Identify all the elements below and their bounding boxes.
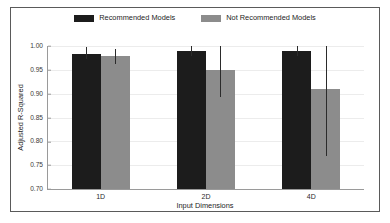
x-axis-tick-label-4d: 4D <box>307 193 316 200</box>
x-axis-tick-label-1d: 1D <box>96 193 105 200</box>
y-axis-tick-label: 0.75 <box>30 162 48 169</box>
y-axis-tick-label: 0.90 <box>30 90 48 97</box>
bar-4d-series1[interactable] <box>282 51 311 189</box>
legend-label-recommended: Recommended Models <box>99 14 175 21</box>
bar-2d-series1[interactable] <box>177 51 206 189</box>
bar-group-2d: 2D <box>153 46 258 189</box>
y-axis-tick-label: 0.85 <box>30 114 48 121</box>
legend-swatch-recommended <box>74 15 94 22</box>
y-axis-title-text: Adjusted R-Squared <box>16 84 25 151</box>
figure-canvas: Recommended Models Not Recommended Model… <box>0 0 390 223</box>
error-bar-1d-series2 <box>115 49 116 64</box>
y-axis-tick-label: 0.70 <box>30 186 48 193</box>
y-axis-tick-label: 0.95 <box>30 67 48 74</box>
bar-1d-series2[interactable] <box>101 56 130 189</box>
legend-entry-recommended: Recommended Models <box>74 14 175 21</box>
bar-group-1d: 1D <box>48 46 153 189</box>
error-bar-1d-series1 <box>86 47 87 59</box>
legend-entry-not-recommended: Not Recommended Models <box>201 14 316 21</box>
x-axis-tick-label-2d: 2D <box>202 193 211 200</box>
error-bar-2d-series2 <box>220 46 221 97</box>
error-bar-4d-series2 <box>326 46 327 156</box>
legend-swatch-not-recommended <box>201 15 221 22</box>
legend-label-not-recommended: Not Recommended Models <box>226 14 316 21</box>
chart-legend: Recommended Models Not Recommended Model… <box>10 7 380 29</box>
y-axis-tick-label: 1.00 <box>30 43 48 50</box>
y-axis-title: Adjusted R-Squared <box>14 46 26 189</box>
bar-group-4d: 4D <box>259 46 364 189</box>
y-axis-tick-label: 0.80 <box>30 138 48 145</box>
error-bar-4d-series1 <box>297 46 298 56</box>
x-axis-title: Input Dimensions <box>47 202 363 209</box>
error-bar-2d-series1 <box>191 46 192 56</box>
plot-area: 0.700.750.800.850.900.951.001D2D4D <box>47 46 364 190</box>
bar-1d-series1[interactable] <box>72 54 101 189</box>
